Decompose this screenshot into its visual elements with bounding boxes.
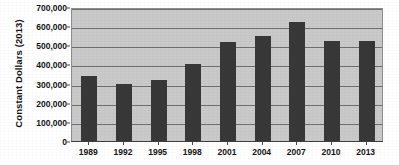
plot-area [71,8,383,142]
gridline [72,28,382,29]
bar [324,41,340,141]
x-axis-tick-mark [331,142,332,145]
bar [220,42,236,141]
x-axis-tick-mark [88,142,89,145]
x-axis-tick-mark [123,142,124,145]
bar [255,36,271,141]
x-axis-tick-mark [227,142,228,145]
x-axis-tick-mark [262,142,263,145]
y-axis-tick-label: 500,000 [15,41,67,51]
y-axis-tick-mark [67,84,70,85]
bar [81,76,97,141]
x-axis-tick-mark [296,142,297,145]
gridline [72,9,382,10]
bar-chart-figure: Constant Dollars (2013) 0100,000200,0003… [0,0,399,165]
y-axis-tick-label: 300,000 [15,80,67,90]
y-axis-tick-label: 600,000 [15,22,67,32]
y-axis-tick-label: 400,000 [15,60,67,70]
y-axis-tick-mark [67,8,70,9]
y-axis-tick-label: 100,000 [15,118,67,128]
bar [359,41,375,141]
y-axis-tick-mark [67,122,70,123]
y-axis-tick-mark [67,142,70,143]
y-axis-tick-label: 700,000 [15,3,67,13]
x-axis-tick-mark [158,142,159,145]
x-axis-tick-mark [366,142,367,145]
x-axis-tick-mark [192,142,193,145]
y-axis-tick-mark [67,103,70,104]
y-axis-tick-mark [67,65,70,66]
x-axis-tick-labels: 198919921995199820012004200720102013 [71,142,383,164]
bar [116,84,132,141]
y-axis-tick-label: 0 [15,137,67,147]
y-axis-tick-mark [67,27,70,28]
bar [289,22,305,141]
bar [185,64,201,141]
y-axis-tick-labels: 0100,000200,000300,000400,000500,000600,… [18,8,70,142]
x-axis-tick-label: 2013 [346,147,386,157]
y-axis-tick-label: 200,000 [15,99,67,109]
y-axis-tick-mark [67,46,70,47]
bar [151,80,167,141]
